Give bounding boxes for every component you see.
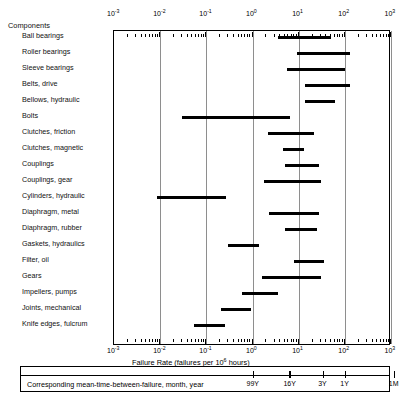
- axis-tick-label: 100: [246, 347, 257, 354]
- component-label: Clutches, magnetic: [22, 144, 83, 152]
- mtbf-tick: [323, 371, 324, 378]
- axis-tick-label: 102: [338, 10, 349, 17]
- axis-tick-minor: [198, 34, 199, 37]
- component-label: Couplings, gear: [22, 176, 72, 184]
- axis-tick-minor: [279, 339, 280, 342]
- axis-tick-minor: [203, 34, 204, 37]
- component-label: Belts, drive: [22, 80, 58, 88]
- axis-tick-minor: [337, 339, 338, 342]
- gridline: [253, 31, 254, 344]
- axis-tick-major: [113, 339, 114, 344]
- mtbf-tick: [289, 371, 290, 378]
- axis-tick-minor: [342, 34, 343, 37]
- range-bar: [221, 308, 251, 311]
- axis-tick-minor: [337, 34, 338, 37]
- axis-tick-minor: [274, 34, 275, 37]
- range-bar: [262, 276, 321, 279]
- axis-tick-minor: [325, 34, 326, 37]
- component-label: Clutches, friction: [22, 128, 75, 136]
- axis-tick-minor: [388, 339, 389, 342]
- component-label: Gears: [22, 272, 42, 280]
- axis-tick-minor: [320, 339, 321, 342]
- axis-tick-minor: [249, 339, 250, 342]
- component-label: Bolts: [22, 112, 38, 120]
- axis-tick-minor: [238, 34, 239, 37]
- mtbf-strip: Corresponding mean-time-between-failure,…: [20, 366, 390, 392]
- axis-tick-minor: [233, 339, 234, 342]
- axis-tick-minor: [366, 34, 367, 37]
- axis-tick-minor: [181, 339, 182, 342]
- axis-tick-minor: [149, 339, 150, 342]
- gridline: [345, 31, 346, 344]
- component-label: Filter, oil: [22, 256, 49, 264]
- axis-tick-minor: [380, 34, 381, 37]
- axis-tick-label: 10-2: [153, 347, 165, 354]
- axis-tick-minor: [274, 339, 275, 342]
- axis-tick-minor: [366, 339, 367, 342]
- mtbf-tick: [394, 371, 395, 378]
- axis-tick-minor: [284, 34, 285, 37]
- axis-tick-label: 10-1: [199, 10, 211, 17]
- axis-tick-minor: [265, 34, 266, 37]
- axis-tick-minor: [191, 34, 192, 37]
- axis-tick-major: [205, 32, 206, 37]
- axis-tick-minor: [380, 339, 381, 342]
- axis-tick-minor: [339, 339, 340, 342]
- axis-tick-minor: [325, 339, 326, 342]
- mtbf-tick-label: 1M: [389, 380, 399, 387]
- axis-tick-major: [252, 339, 253, 344]
- axis-tick-label: 10-3: [107, 10, 119, 17]
- mtbf-tick-label: 1Y: [340, 380, 349, 387]
- mtbf-tick: [253, 371, 254, 378]
- axis-tick-minor: [145, 34, 146, 37]
- mtbf-axis-line: [21, 375, 389, 376]
- axis-tick-minor: [334, 339, 335, 342]
- axis-tick-minor: [135, 34, 136, 37]
- axis-tick-minor: [358, 34, 359, 37]
- axis-tick-minor: [358, 339, 359, 342]
- range-bar: [242, 292, 277, 295]
- axis-tick-minor: [244, 339, 245, 342]
- axis-tick-minor: [141, 34, 142, 37]
- axis-tick-minor: [233, 34, 234, 37]
- axis-tick-minor: [141, 339, 142, 342]
- component-label: Cylinders, hydraulic: [22, 192, 85, 200]
- range-bar: [305, 84, 350, 87]
- range-bar: [285, 228, 317, 231]
- component-label: Impellers, pumps: [22, 288, 77, 296]
- axis-tick-minor: [187, 339, 188, 342]
- axis-tick-minor: [372, 34, 373, 37]
- axis-tick-major: [159, 339, 160, 344]
- axis-tick-minor: [383, 339, 384, 342]
- component-label: Knife edges, fulcrum: [22, 320, 88, 328]
- axis-tick-minor: [244, 34, 245, 37]
- axis-tick-minor: [265, 339, 266, 342]
- axis-tick-minor: [241, 34, 242, 37]
- range-bar: [194, 324, 224, 327]
- axis-tick-major: [344, 32, 345, 37]
- axis-tick-minor: [198, 339, 199, 342]
- axis-tick-minor: [155, 34, 156, 37]
- range-bar: [157, 196, 226, 199]
- component-label: Roller bearings: [22, 48, 70, 56]
- axis-tick-major: [390, 339, 391, 344]
- axis-tick-minor: [339, 34, 340, 37]
- axis-tick-minor: [376, 34, 377, 37]
- mtbf-caption: Corresponding mean-time-between-failure,…: [27, 380, 204, 389]
- axis-tick-major: [252, 32, 253, 37]
- axis-tick-major: [390, 32, 391, 37]
- components-header-label: Components: [8, 22, 50, 30]
- axis-tick-minor: [284, 339, 285, 342]
- axis-tick-label: 10-1: [199, 347, 211, 354]
- axis-tick-minor: [330, 34, 331, 37]
- axis-tick-minor: [293, 34, 294, 37]
- axis-tick-minor: [152, 34, 153, 37]
- axis-tick-minor: [279, 34, 280, 37]
- axis-tick-minor: [187, 34, 188, 37]
- component-label: Diaphragm, rubber: [22, 224, 82, 232]
- axis-tick-minor: [287, 339, 288, 342]
- range-bar: [228, 244, 259, 247]
- axis-tick-minor: [219, 34, 220, 37]
- range-bar: [294, 260, 324, 263]
- axis-tick-label: 103: [385, 10, 396, 17]
